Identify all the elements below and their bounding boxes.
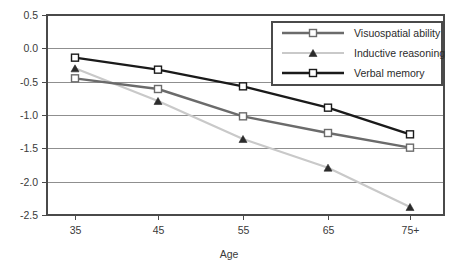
data-point-marker-square [72, 75, 79, 82]
data-point-marker-square [310, 30, 317, 37]
data-point-marker-square [407, 144, 414, 151]
x-axis-title: Age [220, 248, 239, 260]
y-tick-label: 0.5 [23, 9, 38, 21]
y-tick-label: -2.0 [20, 176, 38, 188]
line-chart: 0.50.0-0.5-1.0-1.5-2.0-2.5 3545556575+ V… [0, 0, 457, 271]
y-tick-label: -1.5 [20, 142, 38, 154]
data-point-marker-square [240, 83, 247, 90]
data-point-marker-square [325, 104, 332, 111]
y-tick-label: 0.0 [23, 42, 38, 54]
data-point-marker-square [155, 86, 162, 93]
data-point-marker-square [325, 130, 332, 137]
x-tick-label: 45 [153, 224, 165, 236]
x-tick-label: 35 [70, 224, 82, 236]
y-axis-tick-labels: 0.50.0-0.5-1.0-1.5-2.0-2.5 [20, 9, 38, 221]
y-tick-label: -0.5 [20, 76, 38, 88]
legend-item-label: Inductive reasoning [354, 47, 445, 59]
chart-legend: Visuospatial abilityInductive reasoningV… [272, 22, 445, 85]
x-axis-tickmarks [76, 215, 411, 220]
x-axis-tick-labels: 3545556575+ [70, 224, 420, 236]
data-point-marker-square [310, 70, 317, 77]
x-tick-label: 55 [238, 224, 250, 236]
legend-item-label: Visuospatial ability [354, 27, 441, 39]
legend-item-label: Verbal memory [354, 67, 425, 79]
x-tick-label: 65 [323, 224, 335, 236]
data-point-marker-square [72, 54, 79, 61]
y-tick-label: -1.0 [20, 109, 38, 121]
data-point-marker-square [155, 66, 162, 73]
y-tick-label: -2.5 [20, 209, 38, 221]
chart-figure: 0.50.0-0.5-1.0-1.5-2.0-2.5 3545556575+ V… [0, 0, 457, 271]
data-point-marker-square [240, 113, 247, 120]
y-axis-tickmarks [42, 16, 47, 216]
x-tick-label: 75+ [402, 224, 420, 236]
data-point-marker-square [407, 131, 414, 138]
